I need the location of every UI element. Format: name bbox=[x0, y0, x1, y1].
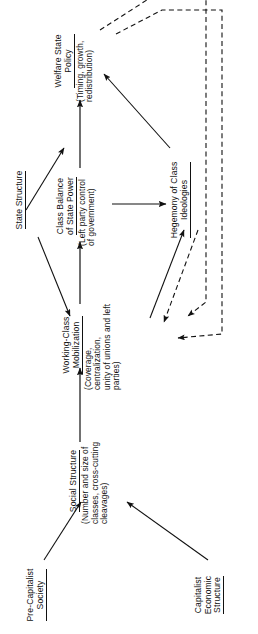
edge-hegemony-to-policy bbox=[104, 74, 170, 148]
node-capitalist-economic-structure: Capitalist Economic Structure bbox=[194, 562, 224, 628]
node-social-structure: Social Structure (Number and size of cla… bbox=[62, 438, 109, 524]
node-title: Class Balance of State Power bbox=[56, 177, 77, 235]
node-title: Capitalist Economic Structure bbox=[194, 576, 224, 615]
node-subtitle: (Timing, growth, redistribution) bbox=[76, 20, 95, 102]
node-title: Welfare State Policy bbox=[54, 34, 75, 87]
node-title: Hegemony of Class Ideologies bbox=[170, 162, 191, 239]
diagram-edges bbox=[0, 0, 258, 634]
edge-capitalist-to-social bbox=[127, 502, 208, 560]
node-pre-capitalist-society: Pre-Capitalist Society bbox=[26, 562, 47, 628]
node-subtitle: (Coverage, centralization, unity of unio… bbox=[84, 300, 122, 390]
diagram-canvas: Pre-Capitalist Society Capitalist Econom… bbox=[0, 0, 258, 634]
node-class-balance-of-state-power: Class Balance of State Power (Left party… bbox=[56, 166, 97, 246]
node-title: Pre-Capitalist Society bbox=[26, 569, 47, 622]
node-welfare-state-policy: Welfare State Policy (Timing, growth, re… bbox=[54, 20, 95, 102]
node-title: State Structure bbox=[15, 171, 26, 230]
node-working-class-mobilization: Working-Class Mobilization (Coverage, ce… bbox=[62, 300, 121, 390]
node-hegemony-of-class-ideologies: Hegemony of Class Ideologies bbox=[170, 152, 191, 248]
node-state-structure: State Structure bbox=[8, 162, 26, 238]
node-title: Working-Class Mobilization bbox=[62, 317, 83, 374]
node-subtitle: (Number and size of classes, cross-cutti… bbox=[81, 438, 109, 524]
node-title: Social Structure bbox=[69, 450, 80, 512]
node-subtitle: (Left party control of government) bbox=[78, 166, 97, 246]
diagram-figure: Pre-Capitalist Society Capitalist Econom… bbox=[0, 0, 258, 634]
